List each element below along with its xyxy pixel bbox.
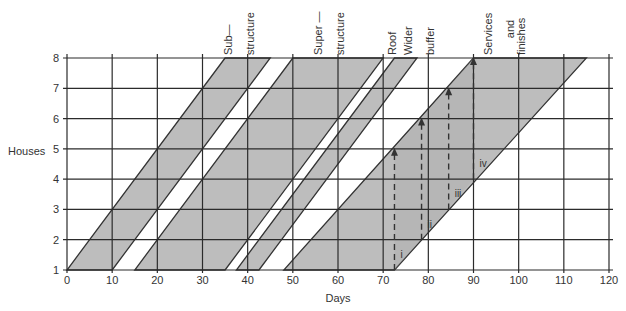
annotation-label: Wider bbox=[402, 26, 414, 55]
y-axis-title: Houses bbox=[8, 145, 46, 157]
y-tick-label: 5 bbox=[53, 143, 59, 155]
x-tick-label: 90 bbox=[467, 274, 479, 286]
wider-buffer-region bbox=[394, 58, 473, 270]
y-tick-label: 7 bbox=[53, 82, 59, 94]
buffer-label: i bbox=[400, 249, 402, 260]
x-tick-label: 50 bbox=[287, 274, 299, 286]
y-tick-label: 6 bbox=[53, 113, 59, 125]
annotation-label: Services bbox=[482, 12, 494, 55]
y-tick-label: 2 bbox=[53, 234, 59, 246]
x-axis-tick-labels: 0102030405060708090100110120 bbox=[64, 274, 618, 286]
buffer-label: ii bbox=[428, 219, 432, 230]
annotation-label: structure bbox=[244, 12, 256, 55]
annotation-label: Sub— bbox=[222, 24, 234, 55]
x-tick-label: 10 bbox=[106, 274, 118, 286]
buffer-label: iv bbox=[480, 158, 487, 169]
y-tick-label: 3 bbox=[53, 203, 59, 215]
annotation-label: Roof bbox=[386, 31, 398, 55]
x-tick-label: 80 bbox=[422, 274, 434, 286]
buffer-label: iii bbox=[455, 188, 462, 199]
y-tick-label: 8 bbox=[53, 52, 59, 64]
activity-annotations: Sub—structureSuper —structureRoofWiderbu… bbox=[222, 12, 527, 55]
x-tick-label: 20 bbox=[151, 274, 163, 286]
x-tick-label: 110 bbox=[555, 274, 573, 286]
y-tick-label: 1 bbox=[53, 264, 59, 276]
annotation-label: structure bbox=[334, 12, 346, 55]
y-tick-label: 4 bbox=[53, 173, 59, 185]
x-tick-label: 60 bbox=[332, 274, 344, 286]
line-of-balance-chart: iiiiiiiv 0102030405060708090100110120 12… bbox=[0, 0, 626, 311]
x-axis-title: Days bbox=[325, 292, 351, 304]
x-tick-label: 30 bbox=[196, 274, 208, 286]
annotation-label: buffer bbox=[424, 27, 436, 55]
x-tick-label: 70 bbox=[377, 274, 389, 286]
x-tick-label: 100 bbox=[509, 274, 527, 286]
x-tick-label: 120 bbox=[600, 274, 618, 286]
x-tick-label: 0 bbox=[64, 274, 70, 286]
x-tick-label: 40 bbox=[242, 274, 254, 286]
annotation-label: finishes bbox=[515, 17, 527, 55]
chart-canvas: iiiiiiiv 0102030405060708090100110120 12… bbox=[0, 0, 626, 311]
annotation-label: Super — bbox=[312, 12, 324, 55]
activity-bands bbox=[67, 58, 586, 270]
y-axis-tick-labels: 12345678 bbox=[53, 52, 59, 276]
